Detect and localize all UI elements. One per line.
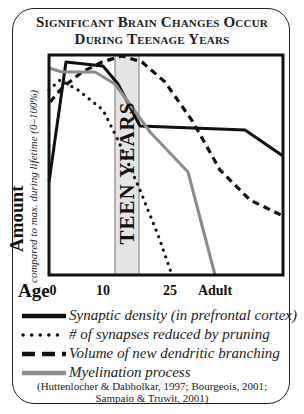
teen-years-text: TEEN YEARS [115,102,139,245]
citation-line-1: (Huttenlocher & Dabholkar, 1997; Bourgeo… [16,380,288,392]
legend-label: Synaptic density (in prefrontal cortex) [69,307,297,324]
legend-item-2: Volume of new dendritic branching [20,344,292,363]
plot-frame [49,55,283,275]
x-tick-0: 0 [50,283,57,299]
legend-label: # of synapses reduced by pruning [69,326,270,343]
x-axis-label: Age [18,280,50,302]
legend-label: Volume of new dendritic branching [69,345,280,362]
series-lines [49,56,283,275]
series-line-2 [50,56,283,216]
legend-item-0: Synaptic density (in prefrontal cortex) [20,306,292,325]
citation: (Huttenlocher & Dabholkar, 1997; Bourgeo… [16,380,288,404]
legend-swatch-icon [20,330,68,340]
legend-swatch-icon [20,349,68,359]
teen-years-label: TEEN YEARS [115,102,139,245]
citation-line-2: Sampaio & Truwit, 2001) [16,392,288,404]
legend-swatch-icon [20,311,68,321]
x-tick-2: 25 [163,283,177,299]
legend: Synaptic density (in prefrontal cortex)#… [20,306,292,382]
x-tick-1: 10 [96,283,110,299]
legend-swatch-icon [20,368,68,378]
x-tick-3: Adult [198,283,232,299]
y-axis-label: Amount [6,185,28,252]
legend-label: Myelination process [69,364,191,381]
series-line-1 [49,80,172,275]
y-axis-sublabel: compared to max. during lifetime (0–100%… [27,90,39,283]
legend-item-1: # of synapses reduced by pruning [20,325,292,344]
series-line-0 [49,62,283,182]
